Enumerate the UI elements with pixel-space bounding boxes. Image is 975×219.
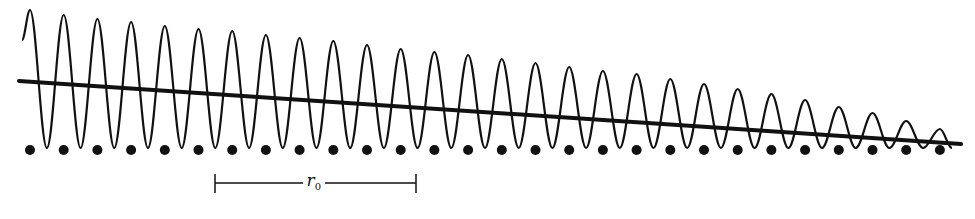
atom-dot [699,145,709,155]
r0-subscript: 0 [315,181,321,192]
atom-dot [261,145,271,155]
r0-symbol: r [307,170,315,190]
atom-dot [665,145,675,155]
atom-dot [396,145,406,155]
damped-wave-curve [22,10,952,148]
atom-dot [564,145,574,155]
atom-dot [92,145,102,155]
atom-dot [160,145,170,155]
atom-dot [632,145,642,155]
atom-dot [429,145,439,155]
atom-dot [227,145,237,155]
atom-dot [935,145,945,155]
atom-dot [328,145,338,155]
atom-dot [194,145,204,155]
atom-dots-row [25,145,945,155]
atom-dot [800,145,810,155]
atom-dot [463,145,473,155]
r0-label: r0 [303,170,326,192]
atom-dot [126,145,136,155]
atom-dot [362,145,372,155]
atom-dot [901,145,911,155]
atom-dot [531,145,541,155]
atom-dot [598,145,608,155]
atom-dot [295,145,305,155]
atom-dot [497,145,507,155]
atom-dot [733,145,743,155]
atom-dot [59,145,69,155]
atom-dot [834,145,844,155]
diagram-canvas: r0 [0,0,975,219]
atom-dot [766,145,776,155]
atom-dot [25,145,35,155]
atom-dot [868,145,878,155]
wave-diagram [0,0,975,219]
